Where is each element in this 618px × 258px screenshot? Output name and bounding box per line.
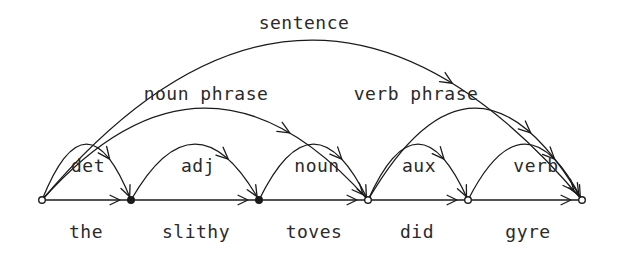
arc-arrowhead-adj-1 <box>247 185 257 197</box>
word-label-2: toves <box>286 221 343 242</box>
arcs-layer <box>42 40 582 200</box>
arc-label-noun-phrase: noun phrase <box>144 83 269 104</box>
chart-node-0 <box>39 197 46 204</box>
baseline-layer <box>42 195 582 205</box>
chart-node-3 <box>365 197 372 204</box>
arc-label-verb-phrase: verb phrase <box>354 83 479 104</box>
arc-diagram-svg <box>0 0 618 258</box>
arc-label-verb: verb <box>513 155 558 176</box>
arc-label-aux: aux <box>402 155 436 176</box>
arc-label-sentence: sentence <box>259 12 350 33</box>
chart-node-1 <box>128 197 135 204</box>
arc-label-noun: noun <box>294 155 339 176</box>
chart-node-2 <box>256 197 263 204</box>
arc-label-adj: adj <box>181 155 215 176</box>
arc-sentence <box>42 40 582 200</box>
word-label-4: gyre <box>505 221 550 242</box>
word-label-3: did <box>400 221 434 242</box>
chart-node-5 <box>579 197 586 204</box>
arc-path-sentence <box>42 40 582 200</box>
diagram-canvas: detadjnounauxverbnoun phraseverb phrases… <box>0 0 618 258</box>
word-label-0: the <box>69 221 103 242</box>
arc-label-det: det <box>71 155 105 176</box>
word-label-1: slithy <box>162 221 230 242</box>
chart-node-4 <box>465 197 472 204</box>
